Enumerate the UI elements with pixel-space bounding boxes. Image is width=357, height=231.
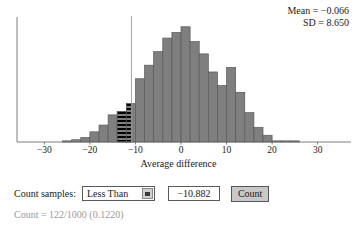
histogram-bar-highlight — [126, 104, 131, 142]
chevron-down-glyph — [145, 192, 150, 196]
histogram-bar — [145, 65, 154, 142]
x-axis-title: Average difference — [0, 157, 357, 170]
count-controls-row: Count samples: Less Than −10.882 Count — [14, 185, 269, 202]
histogram-bar — [181, 27, 190, 142]
histogram-bar — [217, 86, 226, 142]
histogram-bar — [99, 125, 108, 142]
histogram-bar — [90, 132, 99, 142]
x-axis-tick-label: −30 — [37, 144, 52, 156]
histogram-bar — [81, 137, 90, 142]
histogram-bar — [135, 79, 144, 142]
x-axis-tick-label: −10 — [128, 144, 143, 156]
histogram-bar — [163, 38, 172, 142]
histogram-bar — [154, 52, 163, 142]
x-axis-tick-label: 30 — [313, 144, 323, 156]
x-axis-tick-label: 10 — [222, 144, 232, 156]
x-axis-tick-labels: −30−20−100102030 — [0, 144, 357, 158]
direction-select[interactable]: Less Than — [82, 186, 155, 201]
histogram-bar — [172, 32, 181, 142]
count-button[interactable]: Count — [231, 186, 269, 202]
histogram-bars — [63, 27, 300, 142]
histogram-bar — [199, 54, 208, 142]
threshold-input[interactable]: −10.882 — [168, 186, 220, 201]
x-axis-tick-label: −20 — [82, 144, 97, 156]
histogram-canvas — [0, 16, 357, 146]
histogram-bar — [227, 67, 236, 142]
count-samples-label: Count samples: — [14, 187, 76, 200]
direction-select-value: Less Than — [83, 187, 128, 200]
histogram-plot — [0, 16, 357, 146]
count-result-text: Count = 122/1000 (0.1220) — [14, 208, 124, 221]
histogram-bar — [236, 92, 245, 142]
histogram-bar-highlight — [117, 112, 126, 143]
histogram-bar — [245, 113, 254, 142]
x-axis-tick-label: 20 — [267, 144, 277, 156]
chevron-down-icon[interactable] — [142, 188, 153, 199]
histogram-bar — [263, 135, 272, 142]
x-axis-tick-label: 0 — [179, 144, 184, 156]
histogram-bar — [254, 127, 263, 142]
histogram-bar — [208, 72, 217, 142]
histogram-bar — [190, 41, 199, 142]
histogram-bar — [108, 115, 117, 142]
